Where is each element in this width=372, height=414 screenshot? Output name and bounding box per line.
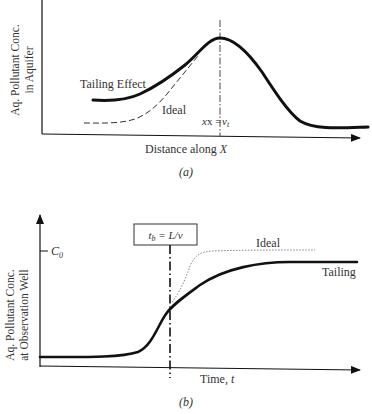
panel-b-x-axis [40, 366, 360, 370]
panel-a-ideal-label: Ideal [162, 103, 187, 117]
panel-a-tailing-label: Tailing Effect [80, 77, 147, 91]
panel-b-caption: (b) [179, 395, 193, 409]
panel-a-x-label: Distance along X [145, 142, 228, 156]
panel-a-x-axis [42, 134, 360, 138]
diagram-canvas: Aq. Pollutant Conc. in Aquifer Tailing E… [0, 0, 372, 414]
panel-b-ideal-label: Ideal [256, 236, 281, 250]
panel-a-marker-label: xx = vt [201, 115, 230, 129]
panel-b-tailing-curve [40, 262, 357, 357]
panel-a: Aq. Pollutant Conc. in Aquifer Tailing E… [9, 0, 368, 179]
panel-b-c0-label: C0 [51, 244, 63, 260]
panel-b-tailing-label: Tailing [322, 265, 356, 279]
panel-b-y-label: Aq. Pollutant Conc. [4, 269, 17, 360]
panel-a-y-label: Aq. Pollutant Conc. [9, 24, 22, 115]
panel-a-caption: (a) [179, 165, 193, 179]
panel-b-x-label: Time, t [200, 372, 235, 386]
panel-b-ideal-curve [172, 250, 315, 302]
panel-b-y-label-line2: at Observation Well [18, 269, 30, 360]
panel-b: C0 Aq. Pollutant Conc. at Observation We… [4, 215, 360, 409]
panel-a-y-label-line2: in Aquifer [23, 46, 36, 93]
